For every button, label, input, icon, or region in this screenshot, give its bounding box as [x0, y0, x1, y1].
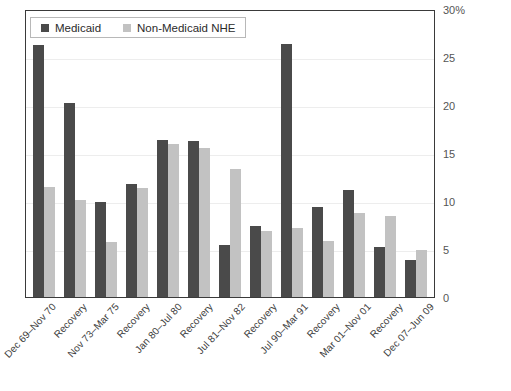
legend-entry: Medicaid	[41, 22, 101, 34]
y-axis-tick-label: 0	[443, 292, 449, 304]
bar-non-medicaid	[385, 216, 396, 297]
x-axis: Dec 69–Nov 70RecoveryNov 73–Mar 75Recove…	[25, 299, 435, 391]
y-axis-tick-label: 5	[443, 244, 449, 256]
y-axis-tick-label: 20	[443, 100, 455, 112]
bar-non-medicaid	[261, 231, 272, 297]
bars-layer	[26, 11, 434, 297]
bar-non-medicaid	[199, 148, 210, 297]
bar-non-medicaid	[168, 144, 179, 297]
bar-group	[95, 11, 117, 297]
legend-label: Non-Medicaid NHE	[137, 22, 235, 34]
y-axis-tick-label: 25	[443, 52, 455, 64]
bar-medicaid	[405, 260, 416, 297]
x-axis-tick-label: Dec 69–Nov 70	[2, 301, 58, 360]
bar-chart: 051015202530% Dec 69–Nov 70RecoveryNov 7…	[0, 0, 511, 391]
legend-swatch-medicaid-icon	[41, 24, 49, 32]
bar-non-medicaid	[230, 169, 241, 297]
bar-medicaid	[374, 247, 385, 297]
bar-non-medicaid	[323, 241, 334, 297]
bar-group	[343, 11, 365, 297]
bar-medicaid	[281, 44, 292, 297]
bar-group	[281, 11, 303, 297]
plot-area	[25, 10, 435, 298]
bar-medicaid	[157, 140, 168, 297]
y-axis: 051015202530%	[440, 0, 506, 310]
bar-non-medicaid	[292, 228, 303, 297]
bar-group	[157, 11, 179, 297]
bar-medicaid	[64, 103, 75, 297]
bar-non-medicaid	[75, 200, 86, 297]
bar-medicaid	[312, 207, 323, 297]
bar-group	[219, 11, 241, 297]
bar-non-medicaid	[137, 188, 148, 297]
bar-medicaid	[219, 245, 230, 297]
legend-entry: Non-Medicaid NHE	[123, 22, 235, 34]
bar-group	[126, 11, 148, 297]
bar-non-medicaid	[106, 242, 117, 297]
bar-medicaid	[126, 184, 137, 297]
bar-medicaid	[188, 141, 199, 297]
y-axis-tick-label: 15	[443, 148, 455, 160]
bar-medicaid	[343, 190, 354, 297]
bar-group	[33, 11, 55, 297]
chart-legend: MedicaidNon-Medicaid NHE	[30, 17, 246, 38]
legend-swatch-nonmedicaid-icon	[123, 24, 131, 32]
bar-group	[312, 11, 334, 297]
y-axis-tick-label: 30%	[443, 4, 465, 16]
bar-group	[64, 11, 86, 297]
bar-group	[188, 11, 210, 297]
bar-non-medicaid	[44, 187, 55, 297]
bar-medicaid	[33, 45, 44, 297]
bar-non-medicaid	[416, 250, 427, 297]
bar-group	[250, 11, 272, 297]
bar-medicaid	[250, 226, 261, 297]
y-axis-tick-label: 10	[443, 196, 455, 208]
bar-non-medicaid	[354, 213, 365, 297]
bar-medicaid	[95, 202, 106, 297]
bar-group	[405, 11, 427, 297]
legend-label: Medicaid	[55, 22, 101, 34]
bar-group	[374, 11, 396, 297]
